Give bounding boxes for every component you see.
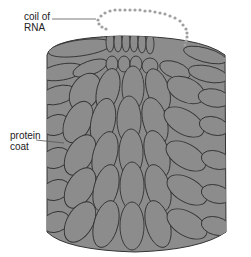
protein-coat-cylinder — [38, 32, 233, 252]
rna-label-line1: coil of — [24, 11, 50, 22]
protein-coat-label: protein coat — [10, 130, 41, 152]
virus-diagram — [0, 0, 251, 257]
coat-label-line1: protein — [10, 130, 41, 141]
coat-label-line2: coat — [10, 141, 41, 152]
rna-label-line2: RNA — [24, 22, 50, 33]
rna-label: coil of RNA — [24, 11, 50, 33]
